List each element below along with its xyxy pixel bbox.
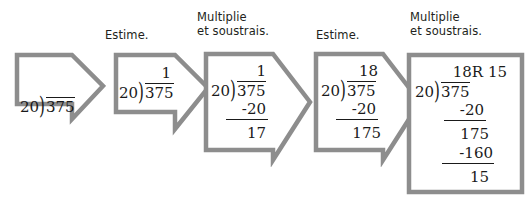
subtract-row-5b: -160	[415, 144, 513, 163]
dividend-row-2: 20)375	[119, 83, 175, 102]
divisor-5: 20	[415, 83, 434, 102]
step-5-caption: Multiplie et soustrais.	[410, 11, 482, 38]
step-1-container: 20)375	[14, 52, 106, 126]
subtract-row-3: -20	[211, 100, 273, 119]
dividend-3: 375	[237, 81, 266, 101]
divisor-3: 20	[211, 82, 230, 101]
step-5-container: 18R 15 20)375 -20 175 -160 15	[406, 52, 525, 195]
division-work-5: 18R 15 20)375 -20 175 -160 15	[415, 63, 513, 187]
result-row-4: 175	[321, 124, 385, 143]
subtract-row-4: -20	[321, 100, 385, 119]
dividend-4: 375	[347, 81, 376, 101]
result-row-3: 17	[211, 124, 273, 143]
divisor-1: 20	[20, 98, 39, 117]
division-bracket-icon-4: )	[340, 76, 346, 105]
quotient-row-3: 1	[211, 62, 273, 81]
divisor-4: 20	[321, 82, 340, 101]
step-3-container: 1 20)375 -20 17	[203, 45, 313, 167]
result-row-5a: 175	[415, 125, 513, 144]
divisor-2: 20	[119, 84, 138, 103]
division-bracket-icon-3: )	[230, 76, 236, 105]
quotient-row-1	[20, 78, 72, 97]
division-bracket-icon-1: )	[39, 92, 45, 121]
division-bracket-icon-5: )	[434, 77, 440, 106]
final-remainder-row: 15	[415, 168, 513, 187]
division-work-3: 1 20)375 -20 17	[211, 62, 273, 143]
step-2-container: 1 20)375	[113, 48, 211, 136]
dividend-row-4: 20)375	[321, 81, 385, 100]
subtract-row-5a: -20	[415, 101, 513, 120]
step-2-caption: Estime.	[105, 29, 149, 43]
dividend-5: 375	[441, 82, 470, 102]
dividend-2: 375	[145, 83, 174, 103]
dividend-row-3: 20)375	[211, 81, 273, 100]
division-work-2: 1 20)375	[119, 64, 175, 102]
division-work-1: 20)375	[20, 78, 72, 116]
long-division-steps-diagram: 20)375 Estime. 1 20)375 Multiplie et sou…	[0, 0, 531, 209]
dividend-row-1: 20)375	[20, 97, 72, 116]
division-work-4: 18 20)375 -20 175	[321, 62, 385, 143]
dividend-1: 375	[46, 97, 75, 117]
step-4-caption: Estime.	[316, 29, 360, 43]
step-3-caption: Multiplie et soustrais.	[197, 11, 269, 38]
quotient-row-4: 18	[321, 62, 385, 81]
quotient-row-2: 1	[119, 64, 175, 83]
quotient-row-5: 18R 15	[415, 63, 513, 82]
dividend-row-5: 20)375	[415, 82, 513, 101]
division-bracket-icon-2: )	[138, 78, 144, 107]
